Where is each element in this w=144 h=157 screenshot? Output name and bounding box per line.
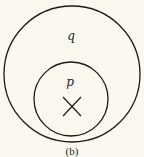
label-q: q (67, 29, 75, 43)
x-mark-icon (63, 97, 81, 116)
caption: (b) (66, 145, 79, 157)
label-p: p (66, 75, 74, 89)
outer-circle-q (4, 6, 140, 142)
inner-circle-p (34, 62, 108, 136)
venn-diagram: q p (b) (0, 0, 144, 157)
